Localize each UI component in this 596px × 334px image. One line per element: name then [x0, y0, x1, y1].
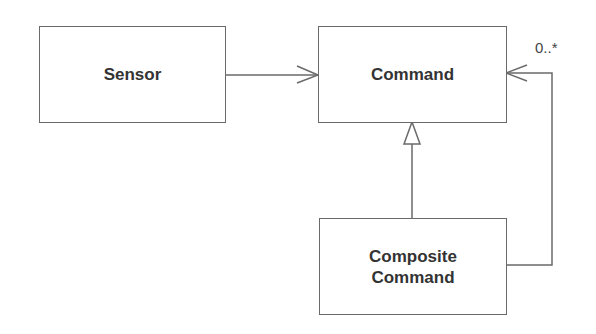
multiplicity-label: 0..*: [535, 39, 558, 56]
composite-command-association-line: [506, 73, 552, 265]
hollow-triangle-icon: [404, 122, 420, 144]
class-command-label: Command: [371, 64, 454, 85]
class-composite-command: Composite Command: [319, 218, 507, 315]
class-command: Command: [318, 26, 507, 123]
class-composite-command-label: Composite Command: [369, 246, 457, 288]
class-sensor: Sensor: [39, 26, 226, 123]
class-sensor-label: Sensor: [104, 64, 162, 85]
